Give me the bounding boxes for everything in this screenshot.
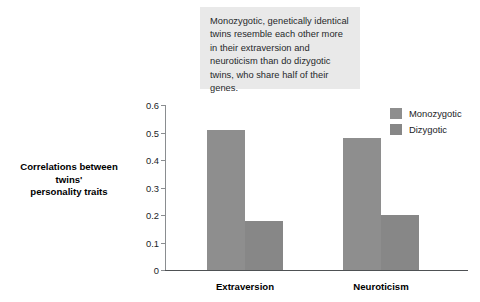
y-tick-label: 0.3 [146, 182, 159, 193]
y-axis-title-line-2: twins' [8, 174, 130, 187]
y-tick-mark [161, 270, 165, 271]
category-label-neuroticism: Neuroticism [353, 281, 408, 292]
legend-swatch-icon [390, 108, 402, 119]
y-axis-title-line-3: personality traits [8, 186, 130, 199]
y-tick-mark [161, 133, 165, 134]
bar-extraversion-dizygotic [245, 221, 283, 271]
chart-figure: Monozygotic, genetically identical twins… [0, 0, 480, 302]
chart-legend: MonozygoticDizygotic [390, 105, 462, 137]
y-tick-label: 0.4 [146, 155, 159, 166]
x-axis-line [165, 270, 468, 271]
legend-label: Dizygotic [409, 124, 447, 135]
y-axis-line [165, 105, 166, 271]
bar-neuroticism-dizygotic [381, 215, 419, 270]
y-tick-mark [161, 215, 165, 216]
legend-item-monozygotic: Monozygotic [390, 105, 462, 121]
y-tick-mark [161, 188, 165, 189]
y-tick-label: 0.1 [146, 237, 159, 248]
bar-neuroticism-monozygotic [343, 138, 381, 270]
y-axis-title-line-1: Correlations between [8, 161, 130, 174]
y-tick-label: 0.6 [146, 100, 159, 111]
legend-label: Monozygotic [409, 108, 462, 119]
legend-item-dizygotic: Dizygotic [390, 121, 462, 137]
y-tick-mark [161, 160, 165, 161]
y-tick-mark [161, 105, 165, 106]
bar-extraversion-monozygotic [207, 130, 245, 270]
category-label-extraversion: Extraversion [216, 281, 274, 292]
y-tick-label: 0 [154, 265, 159, 276]
legend-swatch-icon [390, 124, 402, 135]
y-axis-title: Correlations between twins' personality … [8, 161, 130, 199]
y-tick-label: 0.2 [146, 210, 159, 221]
annotation-caption: Monozygotic, genetically identical twins… [200, 7, 360, 89]
y-tick-label: 0.5 [146, 127, 159, 138]
annotation-text: Monozygotic, genetically identical twins… [210, 15, 351, 95]
y-tick-mark [161, 243, 165, 244]
